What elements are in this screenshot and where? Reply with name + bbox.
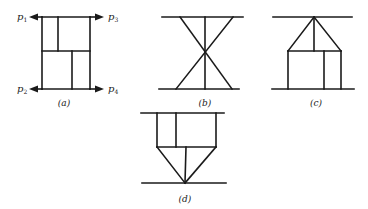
arrow-p3 [90, 14, 104, 21]
port-label-p1: p1 [17, 11, 27, 23]
roof-right [314, 17, 341, 51]
roof-left [288, 17, 314, 51]
panel-d: (d) [141, 113, 226, 204]
caption-a: (a) [58, 98, 71, 108]
port-label-p3: p3 [108, 11, 118, 23]
panel-a: p1 p2 p3 p4 (a) [17, 11, 118, 108]
arrow-p2 [29, 86, 42, 93]
port-label-p2: p2 [17, 83, 27, 95]
caption-c: (c) [310, 98, 323, 108]
port-label-p4: p4 [108, 83, 118, 95]
panel-b: (b) [159, 17, 243, 108]
figure-canvas: p1 p2 p3 p4 (a) (b) (c) (d) [0, 0, 368, 209]
arrow-p1 [29, 14, 42, 21]
arrow-p4 [90, 86, 104, 93]
funnel-vertical [185, 147, 186, 183]
caption-d: (d) [179, 194, 192, 204]
funnel-right [185, 147, 216, 183]
panel-a-box [42, 17, 90, 89]
panel-c: (c) [272, 17, 354, 108]
funnel-left [157, 147, 185, 183]
caption-b: (b) [199, 98, 212, 108]
